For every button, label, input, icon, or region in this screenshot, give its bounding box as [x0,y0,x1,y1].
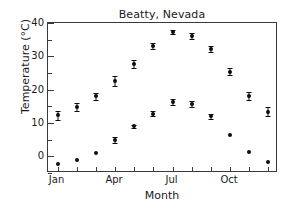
error-bar-cap [132,68,137,69]
data-point [132,124,136,128]
data-point [228,133,232,137]
error-bar-cap [247,92,252,93]
y-tick [48,123,54,124]
error-bar-cap [228,75,233,76]
error-bar-cap [189,107,194,108]
data-point [94,94,98,98]
error-bar-cap [113,76,118,77]
x-tick [153,167,154,171]
data-point [94,151,98,155]
data-point [228,70,232,74]
x-tick [115,167,116,171]
error-bar-cap [189,39,194,40]
x-tick [230,167,231,171]
error-bar-cap [208,119,213,120]
y-tick [48,156,54,157]
y-tick [48,73,52,74]
x-tick [268,167,269,171]
data-point [209,47,213,51]
data-point [113,138,117,142]
y-tick [48,140,52,141]
x-tick [211,167,212,171]
y-axis-tick-labels: 010203040 [16,22,44,172]
error-bar-cap [170,105,175,106]
y-tick-label: 10 [31,117,44,128]
x-tick [77,167,78,171]
data-point [151,44,155,48]
error-bar-cap [74,111,79,112]
y-tick-label: 0 [38,150,44,161]
chart-figure: Beatty, Nevada Temperature (°C) 01020304… [0,0,294,216]
x-axis-label: Month [47,189,277,202]
x-tick [134,167,135,171]
data-point [209,114,213,118]
error-bar-cap [247,100,252,101]
error-bar-cap [113,86,118,87]
error-bar-cap [55,111,60,112]
x-tick [58,167,59,171]
error-bar-cap [170,34,175,35]
data-point [75,105,79,109]
y-tick [48,40,52,41]
error-bar-cap [151,49,156,50]
data-point [56,113,60,117]
chart-title: Beatty, Nevada [47,8,277,21]
data-point [190,102,194,106]
x-tick [192,167,193,171]
data-point [56,162,60,166]
data-point [266,160,270,164]
y-tick [48,56,54,57]
y-tick [48,23,54,24]
x-tick [249,167,250,171]
x-tick-label: Jan [49,174,64,185]
y-tick [48,106,52,107]
x-tick [96,167,97,171]
data-point [247,150,251,154]
y-tick-label: 20 [31,83,44,94]
error-bar-cap [55,120,60,121]
x-tick [173,167,174,171]
data-point [75,158,79,162]
data-point [113,79,117,83]
data-point [266,110,270,114]
error-bar-cap [93,100,98,101]
data-point [132,62,136,66]
data-point [171,100,175,104]
data-point [247,94,251,98]
x-tick-label: Apr [105,174,122,185]
data-point [151,112,155,116]
x-axis-tick-labels: JanAprJulOct [47,174,277,188]
error-bar-cap [208,52,213,53]
data-point [171,30,175,34]
y-tick-label: 40 [31,17,44,28]
error-bar-cap [266,107,271,108]
y-tick [48,90,54,91]
x-tick-label: Jul [166,174,178,185]
error-bar-cap [113,143,118,144]
plot-area [47,22,277,172]
error-bar-cap [132,60,137,61]
error-bar-cap [266,116,271,117]
error-bar-cap [74,103,79,104]
x-tick-label: Oct [220,174,237,185]
y-tick-label: 30 [31,50,44,61]
data-point [190,34,194,38]
error-bar-cap [151,116,156,117]
